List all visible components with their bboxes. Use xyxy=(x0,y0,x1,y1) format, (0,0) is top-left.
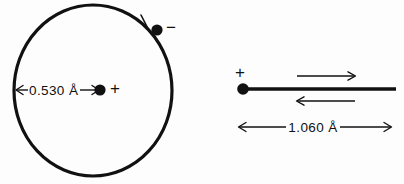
electron-charge-label: − xyxy=(166,18,176,37)
nucleus-charge-label-left: + xyxy=(110,79,120,98)
radius-dimension-label: 0.530 Å xyxy=(29,83,78,98)
vibration-arrow-right xyxy=(297,72,356,80)
diagram-svg: 0.530 Å + − + xyxy=(0,0,404,184)
electron-dot xyxy=(151,24,162,35)
nucleus-dot-right xyxy=(237,83,249,95)
nucleus-charge-label-right: + xyxy=(235,63,245,82)
right-panel-bond-length: + 1.060 Å xyxy=(235,63,396,135)
vibration-arrow-left xyxy=(297,97,356,105)
bond-length-dimension: 1.060 Å xyxy=(239,120,392,135)
radius-dimension: 0.530 Å xyxy=(16,83,99,98)
figure-canvas: 0.530 Å + − + xyxy=(0,0,404,184)
nucleus-dot-left xyxy=(94,84,105,95)
left-panel-bohr-orbit: 0.530 Å + − xyxy=(14,5,176,176)
bond-length-dimension-label: 1.060 Å xyxy=(288,120,337,135)
